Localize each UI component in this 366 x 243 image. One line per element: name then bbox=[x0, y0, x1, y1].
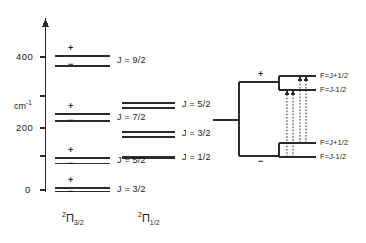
level-label-left-j72: J = 7/2 bbox=[117, 113, 146, 122]
term-omega-right: 1/2 bbox=[150, 219, 160, 226]
level-label-right-j32: J = 3/2 bbox=[182, 129, 211, 138]
level-label-right-j52: J = 5/2 bbox=[182, 100, 211, 109]
term-symbol-pi-one-half: 2Π1/2 bbox=[138, 211, 160, 226]
axis-unit-base: cm bbox=[14, 101, 26, 111]
term-letter-left: Π bbox=[66, 212, 74, 224]
term-omega-left: 3/2 bbox=[74, 219, 84, 226]
axis-unit-label: cm-1 bbox=[14, 100, 32, 111]
inset-bracket bbox=[213, 82, 279, 156]
parity-plus-j52: + bbox=[68, 146, 73, 155]
parity-minus-j72: − bbox=[68, 116, 73, 125]
term-symbol-pi-three-halves: 2Π3/2 bbox=[62, 211, 84, 226]
inset-sublevel-label-lower-jminus: F=J-1/2 bbox=[320, 153, 346, 161]
parity-plus-j92: + bbox=[68, 44, 73, 53]
inset-lower-sublevels bbox=[279, 143, 316, 157]
parity-minus-j52: − bbox=[68, 159, 73, 168]
energy-level-diagram: 400 200 0 cm-1 + − + − + − + − J = 9/2 J… bbox=[0, 0, 366, 243]
inset-transition-arrows bbox=[287, 79, 306, 157]
axis-ticks bbox=[40, 57, 46, 190]
axis-arrowhead bbox=[42, 18, 49, 27]
inset-upper-sublevels bbox=[279, 76, 316, 90]
level-label-left-j52: J = 5/2 bbox=[117, 156, 146, 165]
parity-minus-j92: − bbox=[68, 60, 73, 69]
parity-plus-j32: + bbox=[68, 176, 73, 185]
parity-minus-j32: − bbox=[68, 187, 73, 196]
inset-sublevel-label-lower-jplus: F=J+1/2 bbox=[320, 139, 348, 147]
transition-arrowheads bbox=[285, 75, 309, 95]
parity-plus-j72: + bbox=[68, 102, 73, 111]
inset-sublevel-label-upper-jminus: F=J-1/2 bbox=[320, 86, 346, 94]
axis-tick-200: 200 bbox=[16, 123, 33, 133]
level-label-left-j92: J = 9/2 bbox=[117, 56, 146, 65]
level-label-right-j12: J = 1/2 bbox=[182, 153, 211, 162]
levels-pi-three-halves bbox=[55, 56, 110, 192]
axis-unit-exponent: -1 bbox=[26, 99, 32, 106]
level-label-left-j32: J = 3/2 bbox=[117, 185, 146, 194]
inset-parity-minus: − bbox=[258, 157, 263, 166]
axis-tick-0: 0 bbox=[25, 185, 31, 195]
axis-tick-400: 400 bbox=[16, 52, 33, 62]
inset-sublevel-label-upper-jplus: F=J+1/2 bbox=[320, 72, 348, 80]
term-letter-right: Π bbox=[142, 212, 150, 224]
diagram-vector-layer bbox=[0, 0, 366, 243]
inset-parity-plus: + bbox=[258, 70, 263, 79]
